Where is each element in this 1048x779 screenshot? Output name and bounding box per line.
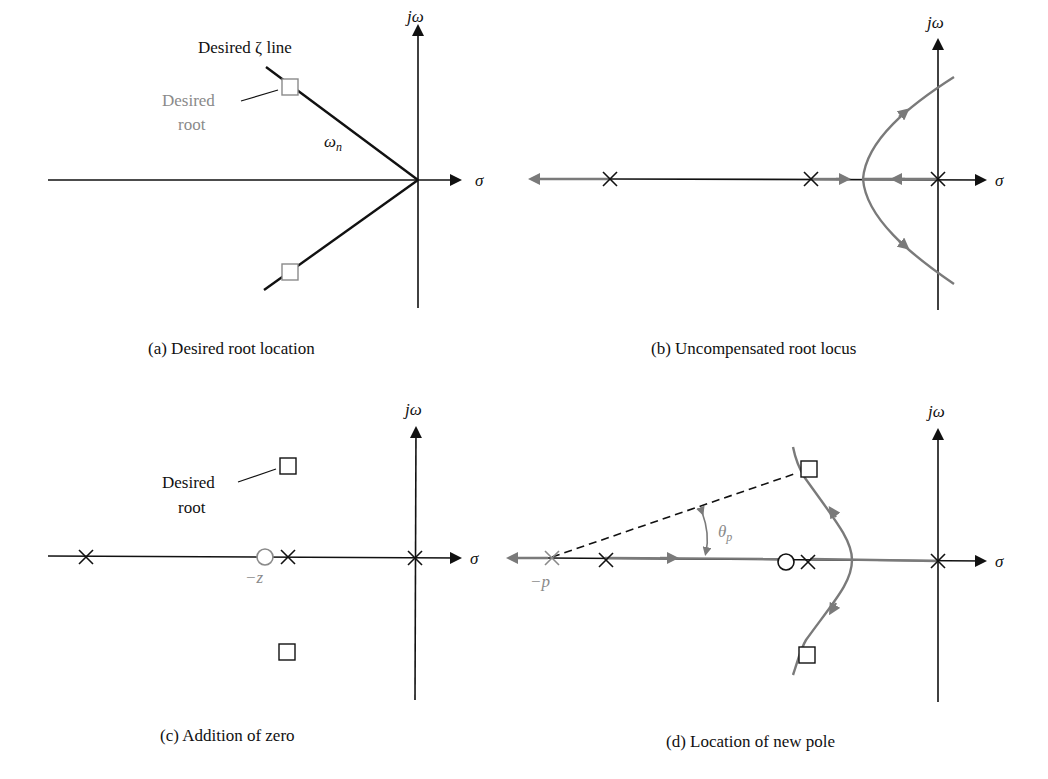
- pole-2: [801, 555, 815, 569]
- leader-line: [238, 469, 276, 482]
- caption-d: (d) Location of new pole: [666, 732, 835, 751]
- imag-axis-label: jω: [403, 400, 422, 419]
- desired-root-label-2: root: [178, 498, 206, 517]
- theta-arc: [702, 512, 707, 552]
- zeta-line-label: Desired ζ line: [198, 38, 292, 57]
- real-axis-label: σ: [995, 171, 1004, 190]
- real-axis-label: σ: [995, 552, 1004, 571]
- desired-root-upper: [801, 461, 817, 477]
- real-axis: [48, 556, 460, 558]
- desired-root-label-1: Desired: [162, 473, 215, 492]
- theta-label: θp: [718, 522, 732, 544]
- imag-axis-label: jω: [926, 402, 945, 421]
- desired-root-lower: [279, 644, 295, 660]
- zero-marker: [778, 554, 794, 570]
- locus-branch-lower: [863, 179, 954, 284]
- locus-branch-upper: [863, 77, 954, 179]
- desired-root-upper: [282, 79, 298, 95]
- pole-1: [599, 553, 613, 567]
- caption-a: (a) Desired root location: [148, 339, 315, 358]
- desired-root-lower: [799, 647, 815, 663]
- real-axis-label: σ: [475, 171, 484, 190]
- omega-n-label: ωn: [324, 132, 342, 154]
- locus-segment-left: [605, 558, 778, 559]
- caption-b: (b) Uncompensated root locus: [651, 339, 856, 358]
- zero-marker: [257, 549, 273, 565]
- real-axis-label: σ: [470, 549, 479, 568]
- desired-root-label-2: root: [178, 115, 206, 134]
- leader-line: [241, 90, 278, 101]
- panel-b: jω σ (b) Uncompensated root locus: [534, 13, 1004, 358]
- new-pole-label: −p: [530, 572, 550, 591]
- zero-label: −z: [245, 568, 263, 587]
- root-locus-figure: jω σ Desired ζ line Desired root ωn (a) …: [0, 0, 1048, 779]
- desired-root-lower: [282, 264, 298, 280]
- imag-axis-label: jω: [925, 13, 944, 32]
- desired-root-upper: [280, 458, 296, 474]
- panel-c: jω σ −z Desired root (c) Addition of zer…: [48, 400, 479, 745]
- locus-arrow-lower: [899, 241, 905, 246]
- angle-construction-line: [552, 473, 797, 557]
- imag-axis: [415, 428, 416, 700]
- imag-axis-label: jω: [405, 7, 424, 26]
- panel-a: jω σ Desired ζ line Desired root ωn (a) …: [48, 7, 484, 358]
- panel-d: jω σ θp −p (d) Location of new pole: [512, 402, 1004, 751]
- caption-c: (c) Addition of zero: [160, 726, 295, 745]
- compensated-locus: [793, 447, 852, 675]
- desired-root-label-1: Desired: [162, 91, 215, 110]
